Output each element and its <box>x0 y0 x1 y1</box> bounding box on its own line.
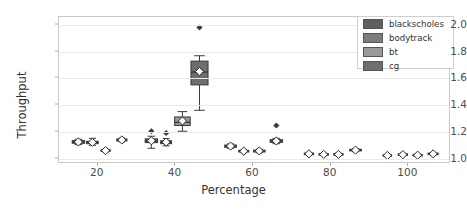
y-tick-label: 1.6 <box>421 71 467 83</box>
box-bt <box>334 150 343 158</box>
y-tick-label: 1.4 <box>421 98 467 110</box>
y-tick-mark <box>55 104 58 105</box>
x-tick-mark <box>97 163 98 166</box>
y-tick-label: 1.2 <box>421 125 467 137</box>
y-tick-mark <box>55 130 58 131</box>
box-blackscholes <box>304 150 313 158</box>
y-tick-mark <box>55 157 58 158</box>
x-tick-mark <box>174 163 175 166</box>
x-tick-label: 40 <box>168 166 181 178</box>
x-tick-label: 100 <box>397 166 417 178</box>
box-blackscholes <box>225 142 237 150</box>
legend-swatch-icon <box>363 47 383 57</box>
box-bodytrack <box>319 150 328 158</box>
box-bodytrack <box>398 151 407 159</box>
gridline <box>59 105 449 106</box>
y-tick-mark <box>55 77 58 78</box>
legend-item-bodytrack[interactable]: bodytrack <box>358 32 453 45</box>
gridline <box>59 78 449 79</box>
x-axis-label: Percentage <box>0 183 467 197</box>
box-blackscholes <box>72 138 84 146</box>
legend-label: bt <box>389 48 398 57</box>
box-cg <box>117 136 127 144</box>
y-axis-label: Throughput <box>15 35 29 175</box>
y-tick-mark <box>55 24 58 25</box>
y-tick-label: 1.0 <box>421 152 467 164</box>
y-tick-label: 2.0 <box>421 18 467 30</box>
box-cg <box>270 123 282 145</box>
box-bt <box>101 147 110 155</box>
legend-label: bodytrack <box>389 34 432 43</box>
x-tick-mark <box>252 163 253 166</box>
box-cg <box>350 146 362 154</box>
box-bodytrack <box>239 147 249 155</box>
legend-swatch-icon <box>363 19 383 29</box>
y-tick-mark <box>55 50 58 51</box>
y-tick-label: 1.8 <box>421 45 467 57</box>
legend-swatch-icon <box>363 33 383 43</box>
x-tick-label: 80 <box>323 166 336 178</box>
gridline <box>59 159 449 160</box>
box-cg <box>191 25 208 110</box>
legend-swatch-icon <box>363 61 383 71</box>
legend-label: cg <box>389 62 399 71</box>
outlier-marker <box>274 123 279 128</box>
box-bodytrack <box>87 138 99 146</box>
x-tick-label: 60 <box>245 166 258 178</box>
box-bt <box>175 112 191 132</box>
x-tick-label: 20 <box>90 166 103 178</box>
x-tick-mark <box>407 163 408 166</box>
chart-root: Throughput Percentage blackscholesbodytr… <box>0 0 467 210</box>
legend-item-cg[interactable]: cg <box>358 60 453 73</box>
box-bt <box>253 147 265 155</box>
gridline <box>59 132 449 133</box>
x-tick-mark <box>330 163 331 166</box>
